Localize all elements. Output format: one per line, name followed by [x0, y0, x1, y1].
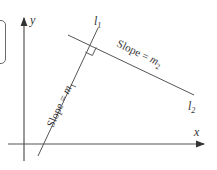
y-axis: y [24, 13, 36, 161]
line-l2-slope-label: Slope = m2 [114, 37, 164, 72]
x-axis-label: x [193, 125, 200, 139]
line-l1-label: l1 [94, 14, 101, 30]
perpendicular-lines-diagram: y x l1 Slope = m1 l2 Slope = m2 [0, 0, 217, 170]
line-l1-slope-label: Slope = m1 [44, 80, 78, 130]
y-axis-label: y [29, 13, 36, 27]
line-l2: l2 Slope = m2 [68, 35, 195, 115]
line-l2-label: l2 [188, 99, 195, 115]
x-axis: x [8, 125, 204, 144]
